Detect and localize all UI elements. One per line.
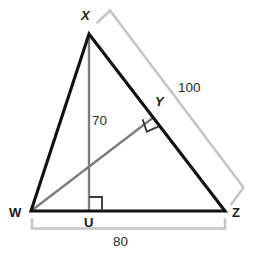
measure-label-side-xz: 100 <box>178 81 201 95</box>
vertex-label-w: W <box>9 206 21 219</box>
right-angle-at-u <box>89 197 102 211</box>
geometry-figure: X Y W U Z 70 100 80 <box>0 0 254 255</box>
vertex-label-x: X <box>81 9 90 22</box>
vertex-label-u: U <box>84 216 93 229</box>
measure-label-altitude: 70 <box>92 114 107 128</box>
measure-label-side-wz: 80 <box>113 235 128 249</box>
bracket-xz <box>98 11 244 205</box>
figure-canvas <box>0 0 254 255</box>
bracket-wz-path <box>32 220 225 229</box>
bracket-xz-path <box>98 11 244 205</box>
right-angle-at-u-mark <box>89 197 102 211</box>
vertex-label-y: Y <box>155 95 164 108</box>
vertex-label-z: Z <box>232 206 240 219</box>
bracket-wz <box>32 220 225 229</box>
